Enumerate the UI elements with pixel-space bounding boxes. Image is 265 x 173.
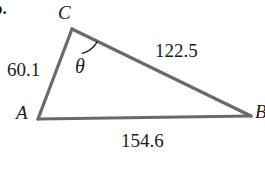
side-length-label-ac: 60.1 — [7, 60, 40, 79]
side-ac-line — [38, 29, 72, 119]
triangle-figure: b. C A B 60.1 122.5 154.6 θ — [0, 0, 265, 173]
side-length-label-ab: 154.6 — [121, 131, 164, 150]
side-ab-line — [38, 116, 251, 119]
vertex-label-a: A — [16, 103, 28, 122]
vertex-label-c: C — [58, 3, 71, 22]
vertex-label-b: B — [255, 102, 265, 121]
list-item-marker: b. — [0, 0, 7, 17]
angle-arc-at-c — [82, 41, 98, 53]
side-length-label-cb: 122.5 — [155, 41, 198, 60]
angle-label-theta: θ — [75, 56, 85, 76]
